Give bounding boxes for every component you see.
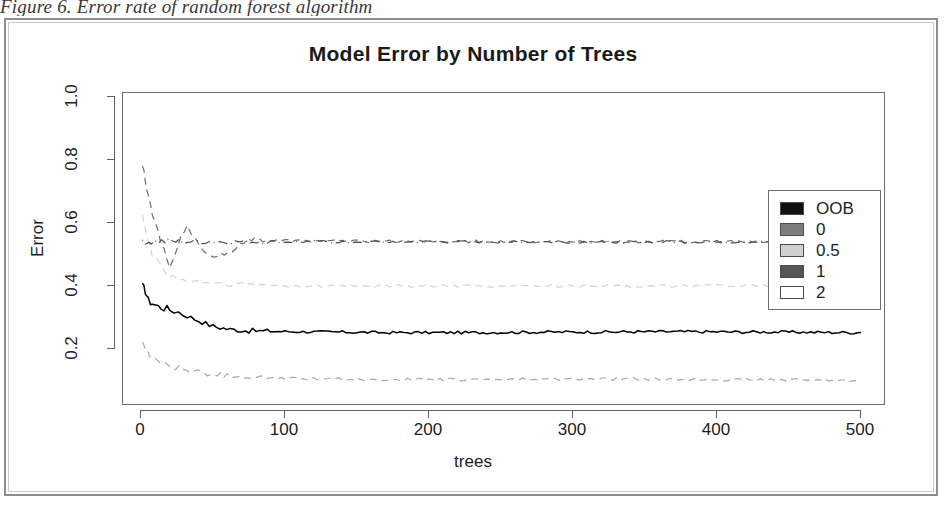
y-tick-label-text: 0.6 (62, 200, 82, 244)
x-tick-mark (284, 410, 285, 418)
legend-item-OOB: OOB (769, 198, 880, 219)
y-tick-mark (107, 285, 115, 286)
x-tick-label: 400 (681, 420, 751, 440)
x-tick-mark (860, 410, 861, 418)
x-tick-label: 300 (537, 420, 607, 440)
x-tick-label: 0 (105, 420, 175, 440)
legend-swatch-icon (780, 202, 804, 215)
y-tick-label-text: 1.0 (62, 74, 82, 118)
legend-item-1: 1 (769, 261, 880, 282)
legend-swatch-icon (780, 223, 804, 236)
y-tick-label: 0.2 (50, 338, 94, 358)
legend-label: 0.5 (816, 242, 840, 259)
x-axis-title: trees (0, 452, 946, 472)
series-line-0-5 (142, 215, 861, 288)
y-tick-label: 1.0 (50, 86, 94, 106)
legend-label: 2 (816, 284, 825, 301)
y-tick-label-text: 0.4 (62, 263, 82, 307)
y-tick-mark (107, 159, 115, 160)
y-tick-label: 0.4 (50, 275, 94, 295)
legend-swatch-icon (780, 244, 804, 257)
legend-swatch-icon (780, 286, 804, 299)
x-tick-mark (572, 410, 573, 418)
series-line-2 (142, 342, 861, 381)
y-tick-mark (107, 96, 115, 97)
x-axis-line (140, 410, 861, 411)
legend-label: OOB (816, 200, 854, 217)
legend-label: 1 (816, 263, 825, 280)
x-tick-label: 500 (825, 420, 895, 440)
series-line-0 (142, 166, 861, 268)
legend-label: 0 (816, 221, 825, 238)
y-tick-label: 0.6 (50, 212, 94, 232)
legend-item-2: 2 (769, 282, 880, 303)
legend-item-0-5: 0.5 (769, 240, 880, 261)
figure-caption: Figure 6. Error rate of random forest al… (0, 0, 946, 16)
x-tick-label: 100 (249, 420, 319, 440)
y-tick-label-text: 0.2 (62, 326, 82, 370)
legend-swatch-icon (780, 265, 804, 278)
y-tick-mark (107, 222, 115, 223)
chart-legend: OOB00.512 (768, 190, 881, 310)
y-axis-title: Error (28, 208, 48, 268)
x-tick-mark (716, 410, 717, 418)
x-tick-label: 200 (393, 420, 463, 440)
y-tick-label-text: 0.8 (62, 137, 82, 181)
y-tick-mark (107, 348, 115, 349)
y-tick-label: 0.8 (50, 149, 94, 169)
series-line-OOB (142, 283, 861, 334)
chart-title: Model Error by Number of Trees (0, 42, 946, 66)
x-tick-mark (140, 410, 141, 418)
legend-item-0: 0 (769, 219, 880, 240)
x-tick-mark (428, 410, 429, 418)
